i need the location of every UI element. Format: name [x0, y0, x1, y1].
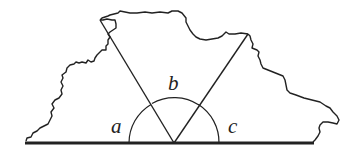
angle-arc-c — [199, 105, 220, 144]
state-outline — [26, 11, 339, 142]
angle-arc-b — [152, 98, 199, 105]
angle-diagram: a b c — [0, 0, 359, 153]
angle-label-b: b — [168, 71, 179, 95]
angle-label-c: c — [228, 114, 238, 138]
angle-arc-a — [129, 104, 151, 143]
angle-label-a: a — [111, 114, 122, 138]
